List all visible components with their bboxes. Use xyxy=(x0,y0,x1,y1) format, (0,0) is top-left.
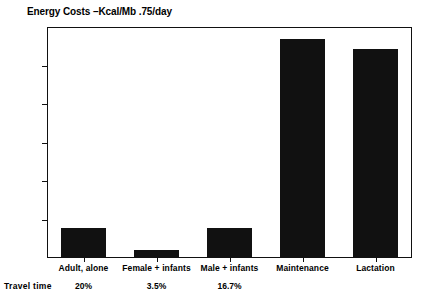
bars-layer xyxy=(48,28,411,257)
travel-time-value-3: 16.7% xyxy=(193,281,266,291)
bar-slot xyxy=(353,28,399,257)
y-tick-mark xyxy=(42,220,47,221)
bar-4 xyxy=(280,39,326,257)
y-tick-mark xyxy=(42,104,47,105)
x-tick-mark xyxy=(230,258,231,262)
x-tick-mark xyxy=(84,258,85,262)
x-category-label-2: Female + infants xyxy=(120,263,193,273)
travel-time-value-2: 3.5% xyxy=(120,281,193,291)
x-category-label-3: Male + infants xyxy=(193,263,266,273)
x-tick-mark xyxy=(376,258,377,262)
bar-1 xyxy=(61,228,107,257)
x-tick-mark xyxy=(303,258,304,262)
travel-time-row-label: Travel time xyxy=(4,281,52,291)
x-category-label-1: Adult, alone xyxy=(47,263,120,273)
bar-slot xyxy=(61,28,107,257)
bar-3 xyxy=(207,228,253,257)
x-tick-mark xyxy=(157,258,158,262)
x-category-label-4: Maintenance xyxy=(266,263,339,273)
x-category-label-5: Lactation xyxy=(339,263,412,273)
bar-5 xyxy=(353,49,399,257)
chart-title: Energy Costs –Kcal/Mb .75/day xyxy=(27,6,172,17)
bar-slot xyxy=(134,28,180,257)
y-tick-mark xyxy=(42,66,47,67)
y-tick-mark xyxy=(42,181,47,182)
bar-2 xyxy=(134,250,180,257)
y-axis: 020406080100120 xyxy=(0,0,47,303)
bar-chart: Energy Costs –Kcal/Mb .75/day 0204060801… xyxy=(0,0,423,303)
bar-slot xyxy=(207,28,253,257)
travel-time-value-1: 20% xyxy=(47,281,120,291)
bar-slot xyxy=(280,28,326,257)
y-tick-mark xyxy=(42,143,47,144)
